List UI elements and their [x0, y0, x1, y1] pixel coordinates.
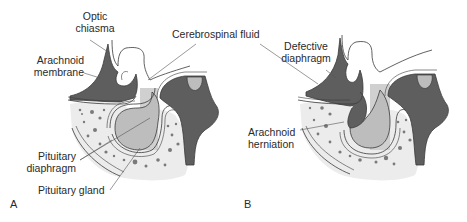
label-line: chiasma: [70, 22, 120, 34]
label-line: diaphragm: [20, 162, 76, 174]
label-arachnoid-herniation: Arachnoid herniation: [248, 126, 295, 150]
panel-letter-b: B: [244, 198, 251, 210]
label-line: Defective: [274, 40, 338, 52]
sella-turcica-diagram: Optic chiasma Arachnoid membrane Pituita…: [0, 0, 467, 222]
label-optic-chiasma: Optic chiasma: [70, 10, 120, 34]
label-line: Optic: [70, 10, 120, 22]
label-arachnoid-membrane: Arachnoid membrane: [28, 54, 84, 78]
label-line: Pituitary: [20, 150, 76, 162]
label-pituitary-diaphragm: Pituitary diaphragm: [20, 150, 76, 174]
label-line: Arachnoid: [28, 54, 84, 66]
label-defective-diaphragm: Defective diaphragm: [274, 40, 338, 64]
label-cerebrospinal-fluid: Cerebrospinal fluid: [172, 28, 260, 40]
label-line: diaphragm: [274, 52, 338, 64]
panel-letter-a: A: [10, 198, 17, 210]
label-line: herniation: [248, 138, 295, 150]
label-pituitary-gland: Pituitary gland: [38, 184, 105, 196]
label-line: membrane: [28, 66, 84, 78]
label-line: Arachnoid: [248, 126, 295, 138]
